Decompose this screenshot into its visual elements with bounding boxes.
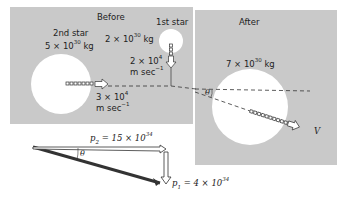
p1-vector — [161, 152, 171, 184]
velocity-label: V — [314, 127, 320, 136]
star1-velocity-unit: m sec−1 — [130, 68, 163, 77]
star1-mass: 2 × 1030 kg — [105, 35, 154, 44]
star2-velocity-unit: m sec−1 — [96, 104, 129, 113]
merged-mass: 7 × 1030 kg — [226, 60, 275, 69]
before-title: Before — [97, 13, 125, 22]
p1-label: p1 = 4 × 1034 — [172, 179, 229, 190]
vector-angle-label: θ — [80, 150, 85, 158]
resultant-vector — [33, 147, 160, 183]
diagram-graphics — [0, 0, 339, 200]
star2-mass: 5 × 1030 kg — [45, 42, 94, 51]
merged-star-circle — [212, 69, 288, 145]
after-angle-label: θ — [205, 89, 210, 97]
star2-label: 2nd star — [53, 29, 88, 38]
star1-label: 1st star — [156, 18, 188, 27]
after-title: After — [239, 18, 259, 27]
p2-label: p2 = 15 × 1034 — [90, 134, 153, 145]
